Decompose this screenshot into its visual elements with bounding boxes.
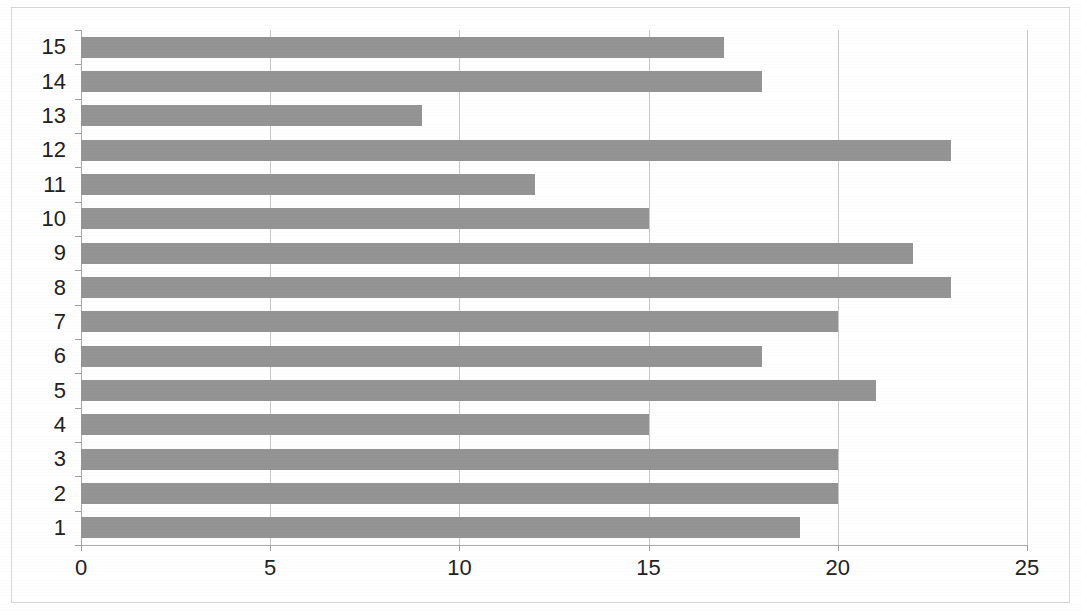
bar-category-2 (81, 483, 838, 504)
y-tick-8 (75, 270, 81, 271)
y-tick-15 (75, 30, 81, 31)
y-axis-label-8: 8 (8, 277, 66, 299)
y-axis-label-9: 9 (8, 242, 66, 264)
y-tick-1 (75, 511, 81, 512)
y-axis-label-14: 14 (8, 71, 66, 93)
y-tick-9 (75, 236, 81, 237)
bar-category-14 (81, 71, 762, 92)
x-axis-label-10: 10 (424, 556, 494, 580)
y-tick-13 (75, 99, 81, 100)
x-axis-label-0: 0 (46, 556, 116, 580)
bar-category-4 (81, 414, 649, 435)
x-axis-label-15: 15 (614, 556, 684, 580)
chart-title-remnant (0, 0, 1081, 5)
y-tick-12 (75, 133, 81, 134)
y-axis-label-5: 5 (8, 380, 66, 402)
y-axis-label-13: 13 (8, 105, 66, 127)
bar-category-10 (81, 208, 649, 229)
bar-category-3 (81, 449, 838, 470)
x-tick-10 (459, 545, 460, 551)
y-tick-14 (75, 64, 81, 65)
x-tick-20 (838, 545, 839, 551)
bar-category-9 (81, 243, 913, 264)
bar-category-12 (81, 140, 951, 161)
gridline-x-25 (1027, 30, 1028, 545)
y-axis-label-12: 12 (8, 139, 66, 161)
y-tick-10 (75, 202, 81, 203)
y-tick-2 (75, 476, 81, 477)
y-axis-label-2: 2 (8, 483, 66, 505)
bar-category-1 (81, 517, 800, 538)
y-axis-label-11: 11 (8, 174, 66, 196)
bar-category-13 (81, 105, 422, 126)
bar-category-7 (81, 311, 838, 332)
x-axis-label-25: 25 (992, 556, 1062, 580)
y-tick-6 (75, 339, 81, 340)
plot-area (81, 30, 1027, 545)
x-axis-line (81, 545, 1028, 546)
bar-category-11 (81, 174, 535, 195)
bar-category-6 (81, 346, 762, 367)
bar-category-15 (81, 37, 724, 58)
y-axis-label-10: 10 (8, 208, 66, 230)
y-axis-label-3: 3 (8, 448, 66, 470)
bar-category-8 (81, 277, 951, 298)
y-axis-label-7: 7 (8, 311, 66, 333)
x-tick-5 (270, 545, 271, 551)
y-axis-label-1: 1 (8, 517, 66, 539)
y-tick-11 (75, 167, 81, 168)
bar-category-5 (81, 380, 876, 401)
y-tick-5 (75, 373, 81, 374)
x-tick-15 (649, 545, 650, 551)
y-tick-7 (75, 305, 81, 306)
x-axis-label-20: 20 (803, 556, 873, 580)
x-axis-label-5: 5 (235, 556, 305, 580)
y-axis-label-4: 4 (8, 414, 66, 436)
y-tick-3 (75, 442, 81, 443)
x-tick-0 (81, 545, 82, 551)
y-tick-4 (75, 408, 81, 409)
y-axis-label-15: 15 (8, 36, 66, 58)
chart-screenshot: 1514131211109876543210510152025 (0, 0, 1081, 611)
y-axis-label-6: 6 (8, 345, 66, 367)
x-tick-25 (1027, 545, 1028, 551)
